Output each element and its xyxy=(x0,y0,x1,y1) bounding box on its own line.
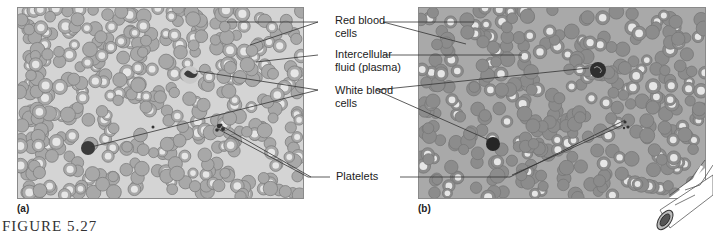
label-white-blood-cells-line2: cells xyxy=(335,97,393,110)
label-intercellular-fluid-line1: Intercellular xyxy=(335,48,401,61)
white-blood-cell-lymphocyte xyxy=(81,141,95,155)
label-intercellular-fluid: Intercellular fluid (plasma) xyxy=(335,48,401,74)
label-red-blood-cells-line1: Red blood xyxy=(335,14,385,27)
white-blood-cell-neutrophil xyxy=(590,62,606,78)
label-white-blood-cells: White blood cells xyxy=(335,84,393,110)
blood-vessel-icon xyxy=(630,150,713,236)
label-red-blood-cells-line2: cells xyxy=(335,27,385,40)
panel-label-a: (a) xyxy=(17,203,29,214)
panel-label-b: (b) xyxy=(418,203,431,214)
blood-cells-illustration xyxy=(18,8,303,198)
label-red-blood-cells: Red blood cells xyxy=(335,14,385,40)
white-blood-cell-lymphocyte xyxy=(486,137,500,151)
label-platelets: Platelets xyxy=(336,170,378,183)
label-white-blood-cells-line1: White blood xyxy=(335,84,393,97)
label-platelets-line1: Platelets xyxy=(336,170,378,183)
label-intercellular-fluid-line2: fluid (plasma) xyxy=(335,61,401,74)
figure-caption: FIGURE 5.27 xyxy=(2,218,97,235)
white-blood-cell-neutrophil xyxy=(181,66,199,84)
panel-a-illustration xyxy=(17,7,304,199)
